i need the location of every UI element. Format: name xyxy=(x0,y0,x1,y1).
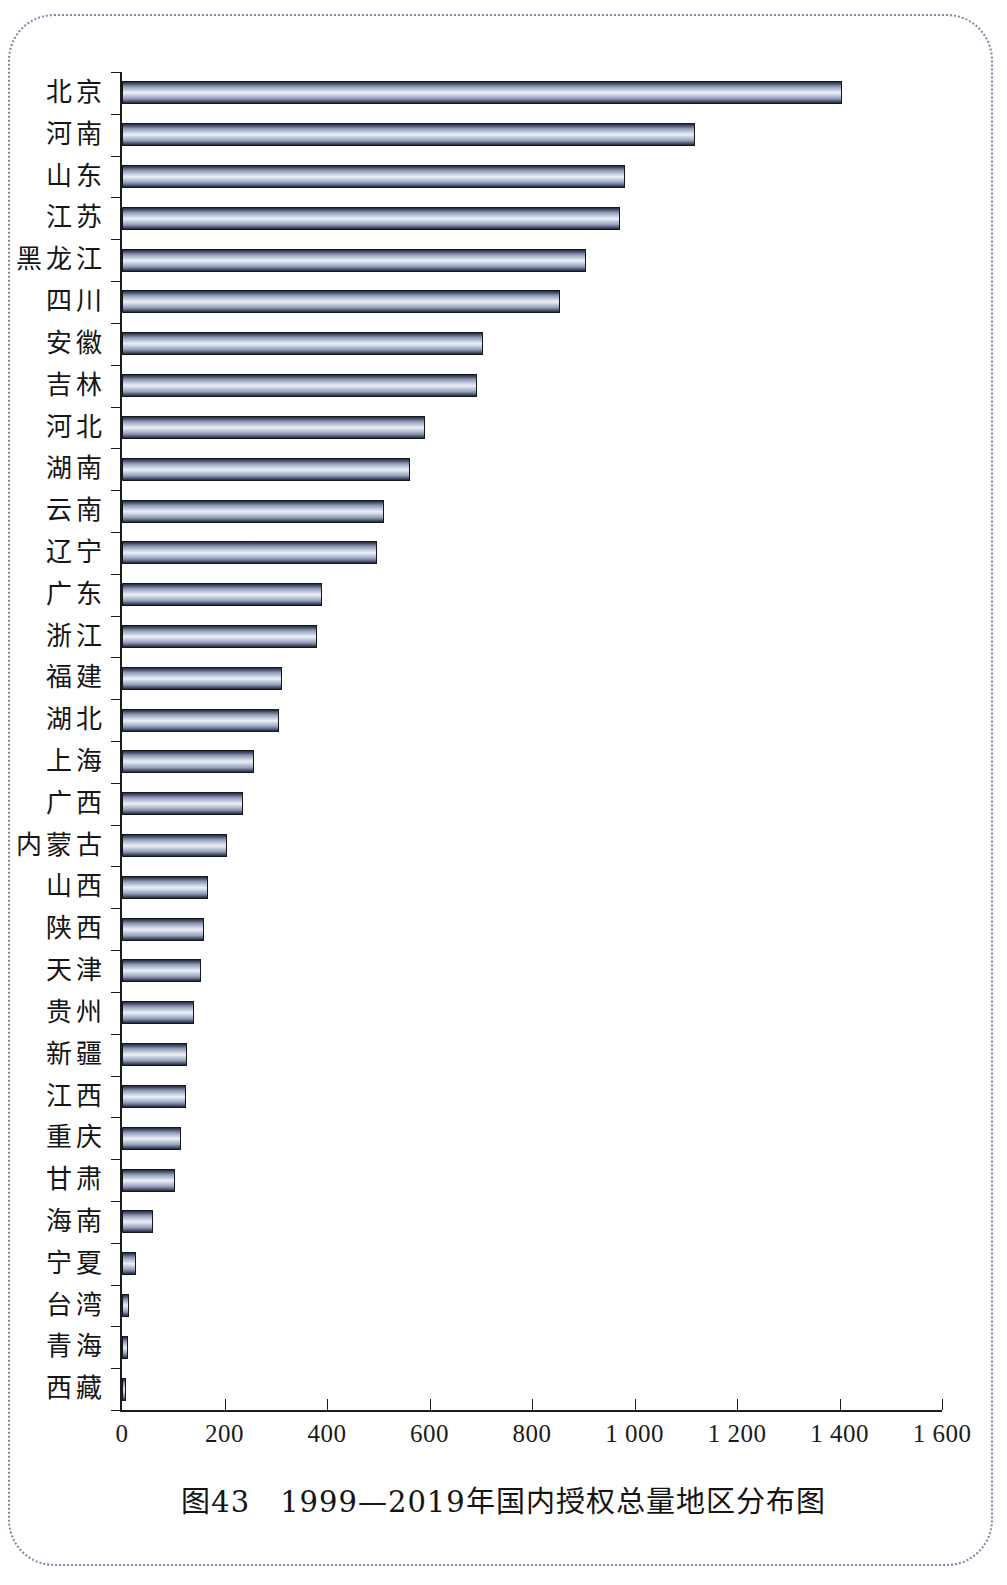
bar xyxy=(122,458,410,481)
x-axis-tick xyxy=(532,1399,533,1410)
y-axis-tick xyxy=(111,532,121,533)
category-label: 四川 xyxy=(0,281,106,323)
bar xyxy=(122,1043,187,1066)
x-axis-tick-label: 400 xyxy=(308,1420,347,1448)
bar xyxy=(122,374,477,397)
bar xyxy=(122,81,842,104)
bar xyxy=(122,876,208,899)
y-axis-tick xyxy=(111,1410,121,1411)
x-axis-tick-label: 600 xyxy=(410,1420,449,1448)
bar xyxy=(122,1252,136,1275)
y-axis-tick xyxy=(111,1034,121,1035)
category-label: 广西 xyxy=(0,783,106,825)
bar xyxy=(122,1336,128,1359)
x-axis-tick xyxy=(430,1399,431,1410)
y-axis-tick xyxy=(111,197,121,198)
y-axis-tick xyxy=(111,72,121,73)
bar xyxy=(122,1210,153,1233)
y-axis-tick xyxy=(111,616,121,617)
bar xyxy=(122,1294,129,1317)
y-axis-tick xyxy=(111,323,121,324)
x-axis-tick-label: 800 xyxy=(513,1420,552,1448)
category-label: 吉林 xyxy=(0,365,106,407)
y-axis-tick xyxy=(111,1159,121,1160)
bar xyxy=(122,1085,186,1108)
y-axis-tick xyxy=(111,574,121,575)
category-label: 宁夏 xyxy=(0,1243,106,1285)
y-axis-tick xyxy=(111,1243,121,1244)
bar xyxy=(122,541,377,564)
bar xyxy=(122,792,243,815)
bar xyxy=(122,709,279,732)
bar xyxy=(122,500,384,523)
category-label: 河南 xyxy=(0,114,106,156)
category-label: 重庆 xyxy=(0,1117,106,1159)
y-axis-tick xyxy=(111,114,121,115)
x-axis-tick xyxy=(225,1399,226,1410)
x-axis-tick xyxy=(635,1399,636,1410)
x-axis-line xyxy=(120,1410,942,1412)
bar xyxy=(122,165,625,188)
y-axis-tick xyxy=(111,156,121,157)
x-axis-tick-label: 200 xyxy=(205,1420,244,1448)
bar xyxy=(122,625,317,648)
y-axis-tick xyxy=(111,1117,121,1118)
category-label: 北京 xyxy=(0,72,106,114)
x-axis-tick-label: 1 400 xyxy=(810,1420,869,1448)
category-label: 云南 xyxy=(0,490,106,532)
category-label: 上海 xyxy=(0,741,106,783)
bar xyxy=(122,918,204,941)
bar xyxy=(122,667,282,690)
category-label: 广东 xyxy=(0,574,106,616)
category-label: 山西 xyxy=(0,866,106,908)
bar xyxy=(122,1001,194,1024)
category-label: 江西 xyxy=(0,1076,106,1118)
category-label: 江苏 xyxy=(0,197,106,239)
y-axis-tick xyxy=(111,783,121,784)
category-label: 新疆 xyxy=(0,1034,106,1076)
y-axis-tick xyxy=(111,657,121,658)
category-label: 河北 xyxy=(0,407,106,449)
y-axis-tick xyxy=(111,490,121,491)
category-label: 天津 xyxy=(0,950,106,992)
y-axis-tick xyxy=(111,1285,121,1286)
bar xyxy=(122,959,201,982)
x-axis-tick xyxy=(327,1399,328,1410)
category-label: 安徽 xyxy=(0,323,106,365)
y-axis-tick xyxy=(111,239,121,240)
bar xyxy=(122,1127,181,1150)
y-axis-tick xyxy=(111,281,121,282)
page: 北京河南山东江苏黑龙江四川安徽吉林河北湖南云南辽宁广东浙江福建湖北上海广西内蒙古… xyxy=(0,0,1007,1585)
x-axis-tick xyxy=(840,1399,841,1410)
bar xyxy=(122,1169,175,1192)
category-label: 内蒙古 xyxy=(0,825,106,867)
category-label: 福建 xyxy=(0,657,106,699)
category-label: 湖南 xyxy=(0,448,106,490)
bar xyxy=(122,750,254,773)
bar-chart: 北京河南山东江苏黑龙江四川安徽吉林河北湖南云南辽宁广东浙江福建湖北上海广西内蒙古… xyxy=(0,0,1007,1460)
category-label: 山东 xyxy=(0,156,106,198)
x-axis-tick-label: 1 200 xyxy=(708,1420,767,1448)
y-axis-tick xyxy=(111,825,121,826)
y-axis-tick xyxy=(111,365,121,366)
category-label: 台湾 xyxy=(0,1285,106,1327)
x-axis-tick-label: 1 600 xyxy=(913,1420,972,1448)
y-axis-tick xyxy=(111,448,121,449)
y-axis-tick xyxy=(111,950,121,951)
x-axis-tick-label: 0 xyxy=(116,1420,129,1448)
y-axis-tick xyxy=(111,1368,121,1369)
y-axis-tick xyxy=(111,866,121,867)
bar xyxy=(122,290,560,313)
y-axis-tick xyxy=(111,908,121,909)
y-axis-tick xyxy=(111,741,121,742)
bar xyxy=(122,583,322,606)
category-label: 辽宁 xyxy=(0,532,106,574)
plot-area: 北京河南山东江苏黑龙江四川安徽吉林河北湖南云南辽宁广东浙江福建湖北上海广西内蒙古… xyxy=(122,72,942,1410)
y-axis-tick xyxy=(111,699,121,700)
category-label: 西藏 xyxy=(0,1368,106,1410)
bar xyxy=(122,332,483,355)
y-axis-tick xyxy=(111,1076,121,1077)
bar xyxy=(122,416,425,439)
category-label: 青海 xyxy=(0,1326,106,1368)
bar xyxy=(122,207,620,230)
